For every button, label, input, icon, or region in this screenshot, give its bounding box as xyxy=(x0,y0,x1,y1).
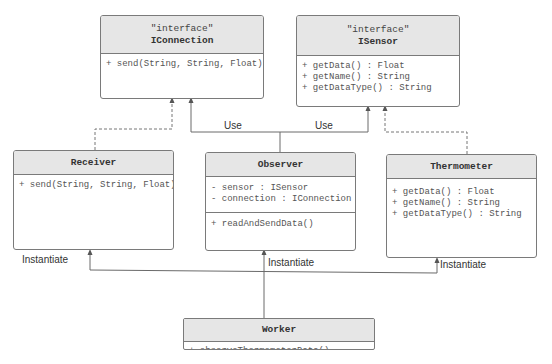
class-receiver[interactable]: Receiver + send(String, String, Float) xyxy=(13,150,174,250)
class-name: Receiver xyxy=(14,157,173,169)
instantiate-label-observer: Instantiate xyxy=(268,257,314,268)
instantiate-label-receiver: Instantiate xyxy=(22,254,68,265)
operations-section: + getData() : Float+ getName() : String+… xyxy=(387,179,536,224)
operation: + send(String, String, Float) xyxy=(19,180,169,191)
operation: + getName() : String xyxy=(302,72,455,83)
instantiate-label-thermometer: Instantiate xyxy=(440,259,486,270)
class-header: Observer xyxy=(206,153,355,177)
operations-section: + send(String, String, Float) xyxy=(14,175,173,195)
uml-diagram: "interface" IConnection + send(String, S… xyxy=(0,0,552,364)
operation: + getDataType() : String xyxy=(392,209,532,220)
operations-section: + send(String, String, Float) xyxy=(101,54,263,74)
stereotype-label: "interface" xyxy=(297,24,459,36)
operation: + send(String, String, Float) xyxy=(106,59,259,70)
class-name: ISensor xyxy=(297,36,459,48)
class-name: Observer xyxy=(206,159,355,171)
class-header: Thermometer xyxy=(387,155,536,179)
operation: + getData() : Float xyxy=(392,187,532,198)
attributes-section: - sensor : ISensor- connection : IConnec… xyxy=(206,177,355,213)
class-header: Worker xyxy=(184,319,374,342)
use-label-right: Use xyxy=(315,120,333,131)
attribute: - connection : IConnection xyxy=(211,194,351,205)
use-label-left: Use xyxy=(224,120,242,131)
class-name: Thermometer xyxy=(387,161,536,173)
operation: + getDataType() : String xyxy=(302,83,455,94)
operations-section: + readAndSendData() xyxy=(206,213,355,234)
class-header: "interface" IConnection xyxy=(101,16,263,54)
operation: + readAndSendData() xyxy=(211,219,351,230)
class-thermometer[interactable]: Thermometer + getData() : Float+ getName… xyxy=(386,154,537,258)
class-worker[interactable]: Worker + observeThermometerData() xyxy=(183,318,375,350)
operation: + observeThermometerData() xyxy=(189,346,370,350)
class-iconnection[interactable]: "interface" IConnection + send(String, S… xyxy=(100,15,264,99)
operation: + getName() : String xyxy=(392,198,532,209)
operation: + getData() : Float xyxy=(302,61,455,72)
class-header: "interface" ISensor xyxy=(297,16,459,56)
class-header: Receiver xyxy=(14,151,173,175)
realization-receiver-iconnection xyxy=(95,102,172,150)
attribute: - sensor : ISensor xyxy=(211,183,351,194)
class-name: IConnection xyxy=(101,35,263,47)
class-name: Worker xyxy=(184,324,374,336)
stereotype-label: "interface" xyxy=(101,23,263,35)
operations-section: + observeThermometerData() xyxy=(184,342,374,350)
class-observer[interactable]: Observer - sensor : ISensor- connection … xyxy=(205,152,356,251)
realization-thermometer-isensor xyxy=(385,110,467,154)
operations-section: + getData() : Float+ getName() : String+… xyxy=(297,56,459,98)
class-isensor[interactable]: "interface" ISensor + getData() : Float+… xyxy=(296,15,460,107)
